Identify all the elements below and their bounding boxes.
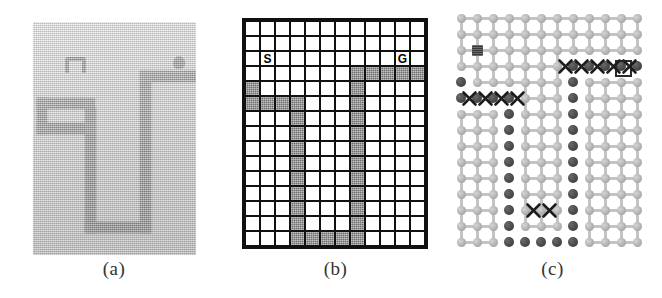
grid-cell-free bbox=[246, 142, 259, 155]
lattice-free-node bbox=[505, 46, 514, 55]
grid-cell-free bbox=[246, 22, 259, 35]
lattice-free-node bbox=[585, 190, 594, 199]
lattice-free-node bbox=[585, 158, 594, 167]
lattice-free-node bbox=[537, 126, 546, 135]
grid-cell-free bbox=[396, 97, 409, 110]
lattice-free-node bbox=[585, 78, 594, 87]
grid-cell-free bbox=[246, 157, 259, 170]
grid-cell-free bbox=[411, 112, 424, 125]
grid-cell-blocked bbox=[321, 232, 334, 245]
grid-cell-free bbox=[291, 37, 304, 50]
lattice-obstacle-node bbox=[568, 93, 578, 103]
grid-cell-free bbox=[276, 112, 289, 125]
grid-cell-blocked bbox=[351, 232, 364, 245]
grid-cell-free bbox=[381, 52, 394, 65]
lattice-free-node bbox=[617, 94, 626, 103]
lattice-obstacle-node bbox=[536, 237, 546, 247]
grid-cell-free bbox=[366, 217, 379, 230]
lattice-obstacle-node bbox=[504, 173, 514, 183]
cut-edge-x-icon bbox=[605, 58, 622, 75]
lattice-free-node bbox=[537, 222, 546, 231]
lattice-free-node bbox=[553, 94, 562, 103]
lattice-free-node bbox=[617, 222, 626, 231]
grid-cell-free bbox=[411, 52, 424, 65]
grid-cell-free bbox=[366, 37, 379, 50]
cut-edge-x-icon bbox=[493, 90, 510, 107]
lattice-free-node bbox=[633, 238, 642, 247]
grid-cell-free bbox=[261, 172, 274, 185]
lattice-obstacle-node bbox=[568, 189, 578, 199]
grid-cell-free bbox=[321, 217, 334, 230]
lattice-free-node bbox=[617, 238, 626, 247]
lattice-free-node bbox=[489, 14, 498, 23]
grid-cell-blocked bbox=[246, 97, 259, 110]
lattice-free-node bbox=[457, 222, 466, 231]
lattice-free-node bbox=[585, 30, 594, 39]
lattice-free-node bbox=[553, 30, 562, 39]
grid-cell-free bbox=[366, 52, 379, 65]
lattice-free-node bbox=[601, 238, 610, 247]
lattice-free-node bbox=[617, 126, 626, 135]
cut-edge-x-icon bbox=[509, 90, 526, 107]
grid-cell-free bbox=[246, 232, 259, 245]
grid-cell-free bbox=[261, 112, 274, 125]
lattice-free-node bbox=[601, 78, 610, 87]
grid-cell-free bbox=[291, 67, 304, 80]
lattice-free-node bbox=[585, 222, 594, 231]
lattice-free-node bbox=[521, 46, 530, 55]
grid-cell-blocked bbox=[246, 82, 259, 95]
grid-cell-free bbox=[261, 217, 274, 230]
lattice-free-node bbox=[457, 190, 466, 199]
grid-cell-blocked bbox=[351, 202, 364, 215]
grid-cell-blocked bbox=[291, 97, 304, 110]
lattice-free-node bbox=[601, 110, 610, 119]
grid-cell-blocked bbox=[276, 97, 289, 110]
lattice-free-node bbox=[489, 238, 498, 247]
grid-cell-free bbox=[306, 67, 319, 80]
lattice-obstacle-node bbox=[568, 205, 578, 215]
lattice-free-node bbox=[457, 110, 466, 119]
grid-cell-free bbox=[381, 82, 394, 95]
grid-cell-free bbox=[411, 127, 424, 140]
lattice-free-node bbox=[553, 78, 562, 87]
lattice-free-node bbox=[457, 174, 466, 183]
lattice-free-node bbox=[489, 222, 498, 231]
lattice-start-node bbox=[472, 45, 483, 56]
grid-cell-free bbox=[246, 112, 259, 125]
grid-cell-blocked bbox=[291, 112, 304, 125]
grid-cell-free bbox=[411, 202, 424, 215]
grid-cell-free bbox=[336, 142, 349, 155]
grid-cell-free bbox=[276, 172, 289, 185]
lattice-free-node bbox=[633, 158, 642, 167]
grid-cell-free bbox=[411, 97, 424, 110]
lattice-free-node bbox=[457, 158, 466, 167]
lattice-free-node bbox=[473, 142, 482, 151]
lattice-free-node bbox=[521, 142, 530, 151]
grid-cell-free bbox=[381, 217, 394, 230]
grid-cell-free bbox=[276, 37, 289, 50]
grid-cell-free bbox=[306, 172, 319, 185]
lattice-free-node bbox=[617, 110, 626, 119]
lattice-free-node bbox=[633, 94, 642, 103]
grid-cell-free bbox=[291, 52, 304, 65]
grid-maze: SG bbox=[242, 18, 428, 249]
lattice-free-node bbox=[473, 78, 482, 87]
lattice-free-node bbox=[553, 46, 562, 55]
grid-cell-free bbox=[261, 127, 274, 140]
lattice-free-node bbox=[553, 222, 562, 231]
photo-grain-overlay bbox=[33, 22, 196, 255]
grid-cell-free bbox=[411, 82, 424, 95]
grid-cell-free bbox=[306, 127, 319, 140]
grid-cell-blocked bbox=[351, 142, 364, 155]
lattice-free-node bbox=[633, 14, 642, 23]
lattice-free-node bbox=[633, 142, 642, 151]
lattice-free-node bbox=[569, 46, 578, 55]
grid-cell-blocked bbox=[351, 172, 364, 185]
lattice-free-node bbox=[633, 126, 642, 135]
grid-cell-free bbox=[306, 37, 319, 50]
lattice-free-node bbox=[633, 110, 642, 119]
lattice-free-node bbox=[521, 126, 530, 135]
lattice-free-node bbox=[457, 62, 466, 71]
grid-cell-free bbox=[411, 22, 424, 35]
lattice-free-node bbox=[617, 30, 626, 39]
